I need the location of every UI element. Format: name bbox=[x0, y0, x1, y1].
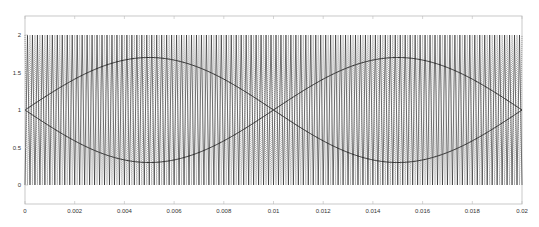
x-tick-label: 0.008 bbox=[216, 208, 232, 214]
x-tick-label: 0.01 bbox=[268, 208, 280, 214]
x-tick-label: 0.002 bbox=[67, 208, 83, 214]
x-tick-label: 0.006 bbox=[167, 208, 183, 214]
y-tick-label: 0 bbox=[18, 182, 22, 188]
x-tick-label: 0.004 bbox=[117, 208, 133, 214]
plot-series bbox=[25, 35, 522, 185]
x-tick-label: 0.012 bbox=[316, 208, 332, 214]
y-tick-label: 1.5 bbox=[13, 70, 22, 76]
x-tick-label: 0.018 bbox=[465, 208, 481, 214]
series-reference-b bbox=[25, 58, 522, 163]
y-tick-label: 2 bbox=[18, 32, 22, 38]
x-tick-label: 0.016 bbox=[415, 208, 431, 214]
x-tick-label: 0.014 bbox=[365, 208, 381, 214]
x-tick-label: 0.02 bbox=[516, 208, 528, 214]
x-tick-label: 0 bbox=[23, 208, 27, 214]
y-tick-label: 0.5 bbox=[13, 145, 22, 151]
pwm-carrier-chart: 00.0020.0040.0060.0080.010.0120.0140.016… bbox=[0, 0, 539, 227]
y-tick-label: 1 bbox=[18, 107, 22, 113]
